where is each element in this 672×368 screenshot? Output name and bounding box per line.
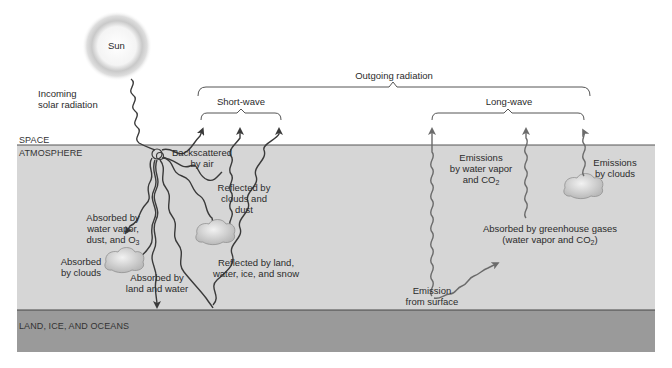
absorbed-land-line1: Absorbed by <box>124 272 190 283</box>
emission-surface-line2: from surface <box>404 296 460 307</box>
reflected-land-label: Reflected by land, water, ice, and snow <box>204 257 308 279</box>
absorbed-land-label: Absorbed by land and water <box>124 272 190 294</box>
reflected-clouds-line3: dust <box>212 204 276 215</box>
backscattered-line2: by air <box>164 158 240 169</box>
absorbed-ghg-label: Absorbed by greenhouse gases (water vapo… <box>480 223 620 245</box>
emissions-vapor-line3-text: and CO <box>463 174 496 185</box>
emissions-vapor-line2: by water vapor <box>446 163 516 174</box>
emissions-vapor-line1: Emissions <box>446 152 516 163</box>
absorbed-ghg-line2: (water vapor and CO2) <box>480 234 620 245</box>
outgoing-bracket <box>198 82 590 96</box>
emissions-clouds-label: Emissions by clouds <box>590 157 640 179</box>
emissions-vapor-line3: and CO2 <box>446 174 516 185</box>
emissions-clouds-line1: Emissions <box>590 157 640 168</box>
radiation-balance-diagram: Sun Incoming solar radiation Outgoing ra… <box>0 0 672 368</box>
absorbed-clouds-line2: by clouds <box>58 267 104 278</box>
reflected-clouds-label: Reflected by clouds and dust <box>212 182 276 215</box>
ozone-subscript: 3 <box>136 239 140 246</box>
absorbed-ghg-line2-close: ) <box>594 234 597 245</box>
absorbed-ghg-line1: Absorbed by greenhouse gases <box>480 223 620 234</box>
atmosphere-label: ATMOSPHERE <box>19 148 82 159</box>
absorbed-clouds-line1: Absorbed <box>58 256 104 267</box>
reflected-land-line2: water, ice, and snow <box>204 268 308 279</box>
reflected-clouds-line1: Reflected by <box>212 182 276 193</box>
emissions-vapor-label: Emissions by water vapor and CO2 <box>446 152 516 185</box>
emission-surface-label: Emission from surface <box>404 285 460 307</box>
long-wave-label: Long-wave <box>474 96 544 107</box>
absorbed-clouds-label: Absorbed by clouds <box>58 256 104 278</box>
short-wave-label: Short-wave <box>206 96 276 107</box>
co2-subscript-1: 2 <box>495 179 499 186</box>
absorbed-vapor-line2: water vapor, <box>80 223 146 234</box>
reflected-land-line1: Reflected by land, <box>204 257 308 268</box>
emissions-clouds-line2: by clouds <box>590 168 640 179</box>
absorbed-ghg-line2-text: (water vapor and CO <box>502 234 590 245</box>
incoming-label: Incoming solar radiation <box>38 88 98 110</box>
sun-label: Sun <box>108 40 125 51</box>
reflected-clouds-line2: clouds and <box>212 193 276 204</box>
surface-label: LAND, ICE, AND OCEANS <box>19 321 129 332</box>
backscattered-label: Backscattered by air <box>164 147 240 169</box>
incoming-label-line2: solar radiation <box>38 99 98 110</box>
absorbed-vapor-line1: Absorbed by <box>80 212 146 223</box>
space-label: SPACE <box>19 135 49 146</box>
emission-surface-line1: Emission <box>404 285 460 296</box>
absorbed-vapor-line3-text: dust, and O <box>86 234 135 245</box>
incoming-label-line1: Incoming <box>38 88 98 99</box>
absorbed-land-line2: land and water <box>124 283 190 294</box>
backscattered-line1: Backscattered <box>164 147 240 158</box>
absorbed-vapor-label: Absorbed by water vapor, dust, and O3 <box>80 212 146 245</box>
short-wave-bracket <box>201 109 281 120</box>
outgoing-radiation-label: Outgoing radiation <box>346 70 442 81</box>
incoming-solar-wave <box>131 79 155 150</box>
diagram-canvas <box>0 0 672 368</box>
absorbed-vapor-line3: dust, and O3 <box>80 234 146 245</box>
long-wave-bracket <box>432 109 584 120</box>
